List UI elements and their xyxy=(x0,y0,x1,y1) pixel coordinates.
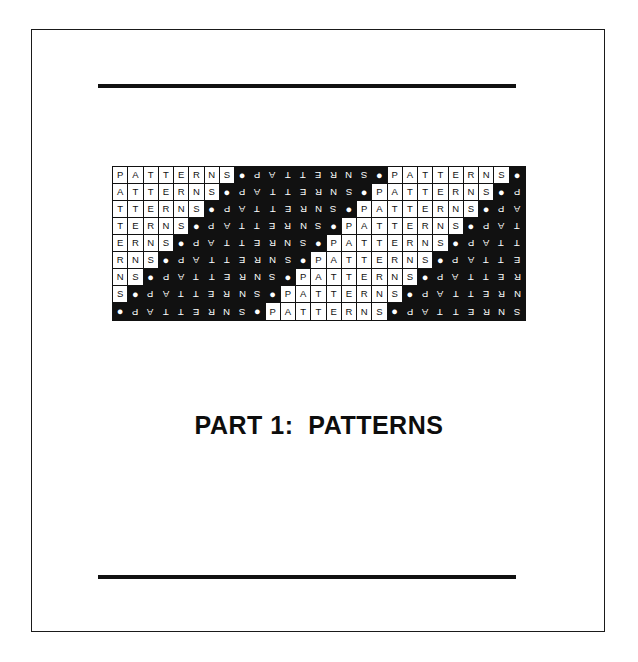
pattern-cell-glyph: S xyxy=(254,289,260,299)
pattern-cell-glyph: ● xyxy=(422,272,429,283)
pattern-cell: T xyxy=(128,201,143,218)
pattern-cell-inverted: P xyxy=(449,252,464,269)
pattern-cell-glyph: T xyxy=(270,204,276,214)
pattern-cell-glyph: S xyxy=(117,289,123,299)
pattern-cell-inverted: T xyxy=(189,269,204,286)
pattern-cell-glyph: N xyxy=(452,204,459,214)
pattern-cell-glyph: A xyxy=(407,170,413,180)
pattern-cell-glyph: R xyxy=(193,170,200,180)
pattern-cell-glyph: T xyxy=(163,170,169,180)
pattern-cell-glyph: P xyxy=(193,238,199,248)
pattern-cell-inverted: S xyxy=(327,201,342,218)
pattern-cell-inverted: N xyxy=(327,184,342,201)
pattern-cell-glyph: A xyxy=(346,238,352,248)
filled-circle-icon: ● xyxy=(357,184,372,201)
pattern-cell-glyph: T xyxy=(498,238,504,248)
pattern-cell-inverted: P xyxy=(220,201,235,218)
pattern-cell-glyph: A xyxy=(330,255,336,265)
pattern-cell-glyph: E xyxy=(269,221,275,231)
pattern-cell-glyph: T xyxy=(315,289,321,299)
pattern-cell: S xyxy=(220,167,235,184)
pattern-cell-glyph: R xyxy=(330,170,337,180)
pattern-cell-glyph: T xyxy=(422,170,428,180)
pattern-cell: A xyxy=(281,303,296,320)
filled-circle-icon: ● xyxy=(266,286,281,303)
pattern-cell-glyph: T xyxy=(254,221,260,231)
pattern-cell-inverted: P xyxy=(128,303,143,320)
pattern-cell-glyph: S xyxy=(468,204,474,214)
pattern-cell: R xyxy=(174,184,189,201)
pattern-cell-glyph: N xyxy=(193,187,200,197)
pattern-cell: S xyxy=(174,218,189,235)
pattern-cell-glyph: N xyxy=(223,307,230,317)
pattern-cell-inverted: S xyxy=(311,218,326,235)
pattern-cell: R xyxy=(128,235,143,252)
pattern-cell-glyph: E xyxy=(254,238,260,248)
pattern-cell-inverted: T xyxy=(281,167,296,184)
pattern-cell-glyph: N xyxy=(315,204,322,214)
pattern-cell: S xyxy=(372,303,387,320)
page-canvas: PATTERNS●PATTERNS●PATTERNS●ATTERNS●PATTE… xyxy=(0,0,638,662)
pattern-cell-inverted: A xyxy=(174,269,189,286)
pattern-cell-inverted: S xyxy=(296,235,311,252)
pattern-cell-glyph: E xyxy=(483,289,489,299)
pattern-cell-glyph: N xyxy=(300,221,307,231)
pattern-cell-inverted: P xyxy=(418,286,433,303)
pattern-cell-glyph: T xyxy=(193,272,199,282)
pattern-cell-glyph: S xyxy=(300,238,306,248)
pattern-cell-glyph: T xyxy=(178,289,184,299)
pattern-cell-glyph: ● xyxy=(269,289,276,300)
pattern-cell-glyph: T xyxy=(392,204,398,214)
pattern-cell: S xyxy=(388,286,403,303)
pattern-cell: P xyxy=(388,167,403,184)
pattern-cell-inverted: N xyxy=(296,218,311,235)
pattern-cell: S xyxy=(479,184,494,201)
pattern-cell-inverted: P xyxy=(205,218,220,235)
pattern-cell: E xyxy=(418,201,433,218)
pattern-cell-glyph: N xyxy=(345,170,352,180)
filled-circle-icon: ● xyxy=(250,303,265,320)
pattern-cell-glyph: N xyxy=(162,221,169,231)
filled-circle-icon: ● xyxy=(372,167,387,184)
pattern-cell-inverted: A xyxy=(144,303,159,320)
pattern-cell-glyph: ● xyxy=(239,170,246,181)
pattern-cell-inverted: P xyxy=(174,252,189,269)
pattern-cell-inverted: A xyxy=(510,201,525,218)
pattern-cell-glyph: ● xyxy=(514,170,521,181)
pattern-cell-glyph: R xyxy=(376,272,383,282)
pattern-cell-inverted: N xyxy=(311,201,326,218)
pattern-cell-glyph: A xyxy=(376,204,382,214)
pattern-cell-inverted: A xyxy=(159,286,174,303)
pattern-cell: T xyxy=(128,184,143,201)
pattern-cell-glyph: E xyxy=(163,187,169,197)
pattern-cell: T xyxy=(327,269,342,286)
pattern-cell-glyph: ● xyxy=(300,255,307,266)
pattern-cell-glyph: A xyxy=(422,307,428,317)
pattern-cell-glyph: ● xyxy=(147,272,154,283)
pattern-cell-inverted: N xyxy=(494,303,509,320)
pattern-cell: E xyxy=(449,167,464,184)
pattern-cell: T xyxy=(342,252,357,269)
pattern-cell-glyph: S xyxy=(514,307,520,317)
filled-circle-icon: ● xyxy=(296,252,311,269)
pattern-cell-inverted: P xyxy=(433,269,448,286)
pattern-cell-inverted: R xyxy=(311,184,326,201)
pattern-cell: N xyxy=(372,286,387,303)
pattern-cell: P xyxy=(281,286,296,303)
pattern-cell-glyph: R xyxy=(132,238,139,248)
pattern-cell-glyph: A xyxy=(315,272,321,282)
pattern-cell-inverted: R xyxy=(494,286,509,303)
pattern-cell: R xyxy=(189,167,204,184)
pattern-cell-glyph: R xyxy=(269,238,276,248)
pattern-cell: R xyxy=(342,303,357,320)
pattern-cell-glyph: S xyxy=(346,187,352,197)
pattern-cell-glyph: N xyxy=(178,204,185,214)
pattern-cell: N xyxy=(388,269,403,286)
pattern-cell-glyph: E xyxy=(391,238,397,248)
pattern-cell-inverted: P xyxy=(479,218,494,235)
pattern-cell-inverted: E xyxy=(189,303,204,320)
pattern-cell-glyph: E xyxy=(361,272,367,282)
pattern-cell-inverted: R xyxy=(479,303,494,320)
pattern-cell-inverted: N xyxy=(342,167,357,184)
pattern-cell: E xyxy=(372,252,387,269)
